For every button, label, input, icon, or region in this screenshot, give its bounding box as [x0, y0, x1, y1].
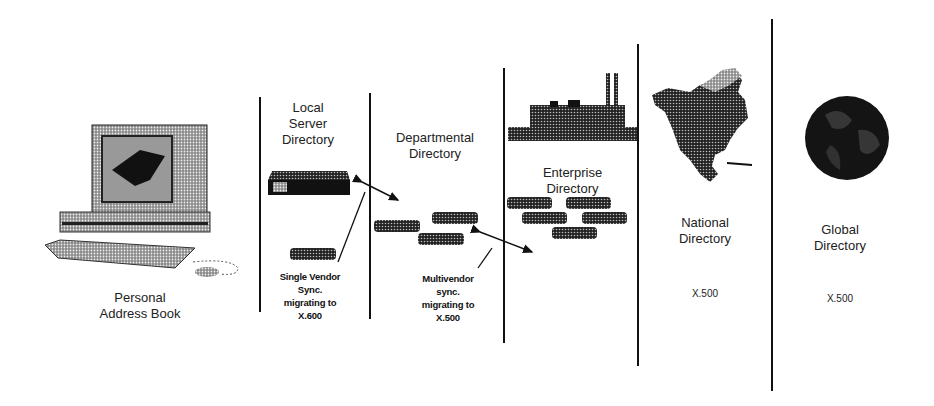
label-line: Directory — [660, 231, 750, 247]
factory-icon — [508, 73, 638, 141]
label-line: Server — [268, 116, 348, 132]
global-label: Global Directory — [795, 222, 885, 254]
north-america-map-icon — [652, 68, 752, 182]
note-line: migrating to — [408, 298, 488, 311]
label-line: Directory — [525, 181, 620, 197]
computer-icon — [45, 125, 238, 277]
sync-arrow — [362, 182, 398, 200]
label-line: Local — [268, 100, 348, 116]
global-standard: X.500 — [800, 293, 880, 304]
server-icon — [268, 171, 350, 260]
sync-arrow — [480, 232, 532, 252]
label-line: Directory — [795, 238, 885, 254]
globe-icon — [805, 96, 889, 180]
label-line: Address Book — [85, 306, 195, 322]
label-line: Global — [795, 222, 885, 238]
personal-label: Personal Address Book — [85, 290, 195, 322]
callout-line — [478, 248, 492, 268]
note-line: Single Vendor — [270, 270, 350, 283]
note-line: Multivendor — [408, 272, 488, 285]
departmental-label: Departmental Directory — [380, 130, 490, 162]
note-line: sync. — [408, 285, 488, 298]
label-line: Departmental — [380, 130, 490, 146]
label-line: National — [660, 215, 750, 231]
note-line: X.500 — [408, 311, 488, 324]
note-line: X.600 — [270, 309, 350, 322]
label-line: Enterprise — [525, 165, 620, 181]
enterprise-label: Enterprise Directory — [525, 165, 620, 197]
workgroup-servers-icon — [374, 212, 478, 245]
note-line: Sync. — [270, 283, 350, 296]
label-line: Personal — [85, 290, 195, 306]
callout-line — [338, 192, 365, 262]
national-label: National Directory — [660, 215, 750, 247]
local-label: Local Server Directory — [268, 100, 348, 148]
diagram-canvas — [0, 0, 934, 406]
local-note: Single Vendor Sync. migrating to X.600 — [270, 270, 350, 322]
note-line: migrating to — [270, 296, 350, 309]
departmental-note: Multivendor sync. migrating to X.500 — [408, 272, 488, 324]
label-line: Directory — [380, 146, 490, 162]
label-line: Directory — [268, 132, 348, 148]
national-standard: X.500 — [665, 288, 745, 299]
enterprise-servers-icon — [507, 197, 627, 239]
